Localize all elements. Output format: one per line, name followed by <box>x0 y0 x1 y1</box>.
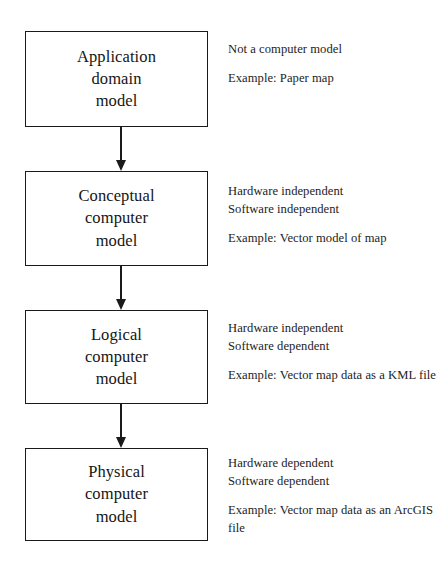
data-model-levels-diagram: Application domain model Not a computer … <box>0 0 440 569</box>
annotation-example: Example: Vector map data as a KML file <box>228 367 436 385</box>
annotation-properties: Not a computer model <box>228 41 436 59</box>
node-conceptual-computer-model: Conceptual computer model <box>25 171 208 266</box>
arrow-logical-to-physical <box>113 404 129 448</box>
node-logical-computer-model: Logical computer model <box>25 310 208 404</box>
arrow-shaft <box>120 404 122 438</box>
annotation-properties: Hardware dependent Software dependent <box>228 455 436 491</box>
annotation-properties: Hardware independent Software independen… <box>228 183 436 219</box>
arrow-application-domain-to-conceptual <box>113 127 129 171</box>
annotation-example: Example: Paper map <box>228 70 436 88</box>
annotation-example: Example: Vector model of map <box>228 230 436 248</box>
annotation-application-domain-model: Not a computer model Example: Paper map <box>228 41 436 88</box>
node-label: Logical computer model <box>77 324 156 390</box>
annotation-physical-computer-model: Hardware dependent Software dependent Ex… <box>228 455 436 538</box>
annotation-example: Example: Vector map data as an ArcGIS fi… <box>228 502 436 538</box>
arrow-shaft <box>120 266 122 300</box>
arrow-shaft <box>120 127 122 161</box>
arrow-head-icon <box>116 437 126 448</box>
node-label: Physical computer model <box>77 461 156 527</box>
annotation-conceptual-computer-model: Hardware independent Software independen… <box>228 183 436 248</box>
arrow-head-icon <box>116 299 126 310</box>
node-label: Conceptual computer model <box>70 185 162 251</box>
node-label: Application domain model <box>69 46 164 112</box>
node-application-domain-model: Application domain model <box>25 31 208 127</box>
node-physical-computer-model: Physical computer model <box>25 448 208 541</box>
annotation-properties: Hardware independent Software dependent <box>228 320 436 356</box>
arrow-conceptual-to-logical <box>113 266 129 310</box>
arrow-head-icon <box>116 160 126 171</box>
annotation-logical-computer-model: Hardware independent Software dependent … <box>228 320 436 385</box>
